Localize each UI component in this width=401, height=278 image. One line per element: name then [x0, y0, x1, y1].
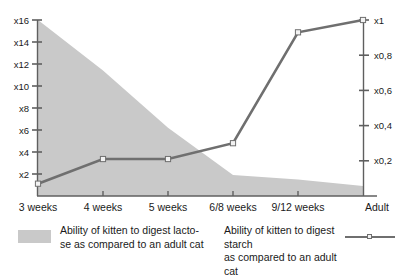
category-axis-label: 5 weeks [149, 201, 188, 213]
area-series-lactose [38, 20, 363, 196]
category-axis-label: 9/12 weeks [271, 201, 324, 213]
right-axis-tick-label: x0,2 [374, 155, 392, 166]
category-axis-label: 6/8 weeks [209, 201, 256, 213]
legend-line-marker-starch [345, 235, 395, 239]
left-axis-tick-label: x14 [14, 37, 29, 48]
right-axis-tick-labels: x0,2x0,4x0,6x0,8x1 [374, 15, 392, 167]
left-axis-tick-label: x6 [19, 125, 29, 136]
legend-label-lactose-line2: se as compared to an adult cat [60, 238, 220, 252]
legend-label-starch: Ability of kitten to digest starch as co… [224, 224, 352, 278]
category-axis-label: 3 weeks [19, 201, 58, 213]
right-axis-tick-label: x0,4 [374, 120, 392, 131]
line-point-marker [165, 156, 170, 161]
line-point-marker [35, 181, 40, 186]
legend-label-lactose: Ability of kitten to digest lacto- se as… [60, 224, 220, 251]
left-axis-tick-label: x4 [19, 147, 29, 158]
left-axis-tick-labels: x2x4x6x8x10x12x14x16 [14, 15, 29, 180]
right-axis-tick-label: x0,8 [374, 50, 392, 61]
legend-line-square-marker [367, 234, 372, 239]
left-axis-tick-label: x10 [14, 81, 29, 92]
category-axis-label: 4 weeks [84, 201, 123, 213]
right-axis-tick-label: x1 [374, 15, 384, 26]
left-axis-tick-label: x12 [14, 59, 29, 70]
legend-swatch-lactose [18, 230, 51, 243]
left-axis-tick-label: x2 [19, 169, 29, 180]
chart-legend: Ability of kitten to digest lacto- se as… [0, 222, 401, 260]
line-point-marker [295, 30, 300, 35]
left-axis-tick-label: x8 [19, 103, 29, 114]
line-point-marker [360, 17, 365, 22]
legend-label-lactose-line1: Ability of kitten to digest lacto- [60, 224, 220, 238]
category-axis-label: Adult [365, 201, 389, 213]
category-axis-labels: 3 weeks4 weeks5 weeks6/8 weeks9/12 weeks… [19, 201, 389, 213]
legend-label-starch-line1: Ability of kitten to digest starch [224, 224, 352, 251]
legend-label-starch-line2: as compared to an adult cat [224, 251, 352, 278]
left-axis-tick-label: x16 [14, 15, 29, 26]
right-axis-tick-label: x0,6 [374, 85, 392, 96]
line-point-marker [230, 141, 235, 146]
line-point-marker [100, 156, 105, 161]
